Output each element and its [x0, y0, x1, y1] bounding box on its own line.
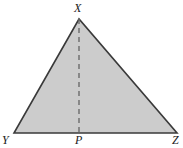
triangle-diagram-canvas	[0, 0, 183, 148]
point-label-p: P	[75, 134, 82, 146]
vertex-label-y: Y	[2, 134, 9, 146]
vertex-label-x: X	[74, 2, 81, 14]
vertex-label-z: Z	[172, 134, 179, 146]
geometry-figure: X Y P Z	[0, 0, 183, 148]
triangle-xyz-shape	[14, 19, 177, 133]
